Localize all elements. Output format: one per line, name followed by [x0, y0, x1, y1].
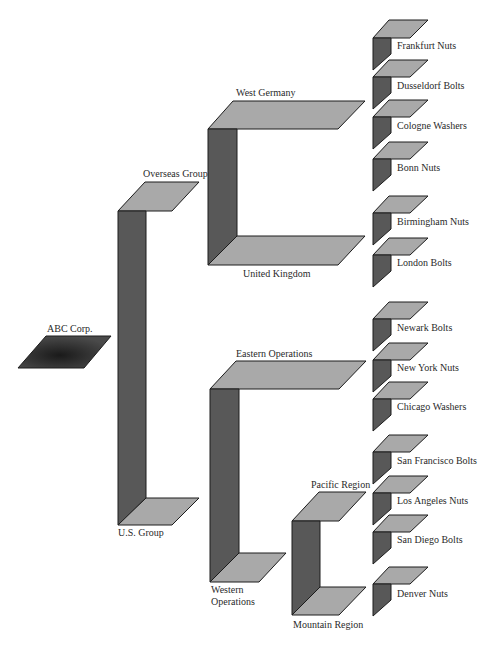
- unit-label: New York Nuts: [397, 362, 459, 374]
- unit-label: London Bolts: [397, 257, 452, 269]
- unit-label: Chicago Washers: [397, 401, 466, 413]
- united-kingdom-label: United Kingdom: [243, 268, 311, 280]
- group-connector-side: [118, 211, 146, 525]
- root-node-shape: [18, 336, 111, 368]
- western-operations-label: Western Operations: [211, 584, 281, 608]
- unit-label: Frankfurt Nuts: [397, 40, 456, 52]
- unit-label: Bonn Nuts: [397, 162, 440, 174]
- us-group-label: U.S. Group: [118, 527, 164, 539]
- eastern-operations-shape: [210, 361, 366, 389]
- unit-label: Newark Bolts: [397, 322, 452, 334]
- us-connector-side: [210, 389, 239, 582]
- unit-label: Los Angeles Nuts: [397, 495, 468, 507]
- unit-label: Cologne Washers: [397, 120, 467, 132]
- unit-label: San Diego Bolts: [397, 534, 463, 546]
- unit-label: Birmingham Nuts: [397, 216, 469, 228]
- overseas-group-shape: [118, 182, 199, 211]
- overseas-group-label: Overseas Group: [143, 168, 208, 180]
- org-chart-diagram: ABC Corp. Overseas Group U.S. Group West…: [0, 0, 489, 647]
- root-label: ABC Corp.: [47, 323, 93, 335]
- unit-label: San Francisco Bolts: [397, 455, 477, 467]
- mountain-region-label: Mountain Region: [293, 619, 363, 631]
- pacific-region-label: Pacific Region: [311, 479, 370, 491]
- west-germany-label: West Germany: [236, 87, 295, 99]
- west-germany-shape: [208, 101, 365, 129]
- eastern-operations-label: Eastern Operations: [236, 348, 312, 360]
- unit-label: Dusseldorf Bolts: [397, 80, 465, 92]
- unit-label: Denver Nuts: [397, 588, 448, 600]
- pacific-region-shape: [292, 492, 366, 521]
